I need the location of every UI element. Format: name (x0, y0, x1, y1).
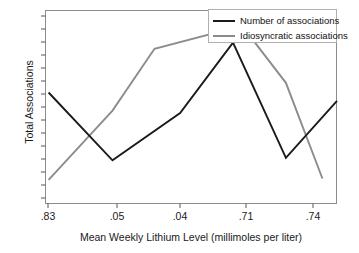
legend-swatch-black-line (213, 20, 235, 22)
legend-label-number-of-associations: Number of associations (240, 15, 339, 26)
x-tick-label-4: .71 (239, 210, 254, 222)
x-tick-label-5: .74 (306, 210, 321, 222)
x-axis-title: Mean Weekly Lithium Level (millimoles pe… (45, 231, 337, 243)
x-tick-label-1: .83 (41, 210, 56, 222)
legend-label-idiosyncratic-associations: Idiosyncratic associations (240, 30, 348, 41)
lithium-associations-chart: Total Associations (0, 0, 359, 253)
legend: Number of associations Idiosyncratic ass… (213, 13, 339, 43)
y-axis-ticks (41, 16, 46, 198)
x-tick-label-3: .04 (173, 210, 188, 222)
legend-swatch-gray-line (213, 35, 235, 37)
x-axis-ticks (48, 204, 313, 209)
legend-item-idiosyncratic-associations: Idiosyncratic associations (213, 28, 339, 43)
x-tick-label-2: .05 (110, 210, 125, 222)
legend-item-number-of-associations: Number of associations (213, 13, 339, 28)
